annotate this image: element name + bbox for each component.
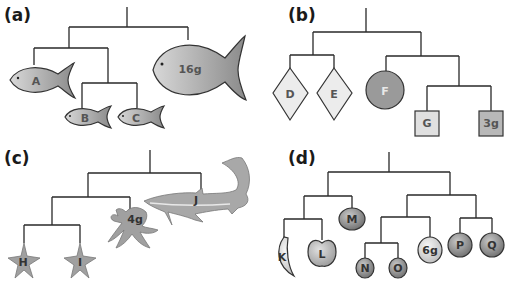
diamond-d: D — [273, 68, 308, 120]
leaf-label-3g: 3g — [483, 117, 499, 130]
fish-c: C — [118, 106, 164, 128]
octopus-4g: 4g — [108, 208, 158, 249]
leaf-label-n: N — [360, 262, 369, 275]
leaf-label-j: J — [193, 194, 198, 207]
leaf-label-i: I — [78, 256, 82, 269]
starfish-i: I — [64, 243, 96, 278]
panel-d: (d) K L M N O 6g — [278, 148, 504, 278]
shark-j: J — [144, 157, 249, 225]
fish-eye-icon — [17, 77, 19, 79]
leaf-label-h: H — [18, 256, 27, 269]
fish-b: B — [65, 106, 111, 128]
leaf-label-d: D — [285, 88, 294, 101]
fruit-6g: 6g — [418, 237, 442, 263]
diamond-e: E — [317, 68, 352, 120]
leaf-label-c: C — [132, 112, 140, 125]
leaf-label-q: Q — [487, 239, 496, 252]
fish-eye-icon — [122, 115, 124, 117]
square-3g: 3g — [479, 111, 503, 136]
banana-k: K — [278, 237, 294, 276]
fruit-p: P — [448, 233, 472, 257]
leaf-label-6g: 6g — [422, 244, 438, 257]
panel-label-d: (d) — [288, 148, 316, 168]
phylogenetic-figure: (a) A B C 16g (b) — [0, 0, 508, 282]
leaf-label-g: G — [422, 117, 431, 130]
panel-label-b: (b) — [288, 5, 316, 25]
panel-label-a: (a) — [4, 5, 31, 25]
fruit-q: Q — [480, 233, 504, 257]
leaf-label-16g: 16g — [178, 63, 201, 76]
leaf-label-e: E — [330, 88, 338, 101]
panel-b: (b) D E F G 3g — [273, 5, 503, 136]
fish-eye-icon — [69, 115, 71, 117]
square-g: G — [415, 111, 439, 136]
leaf-label-k: K — [278, 251, 287, 264]
apple-l: L — [308, 240, 336, 266]
fish-a: A — [10, 63, 75, 98]
leaf-label-b: B — [81, 112, 89, 125]
leaf-label-p: P — [456, 239, 464, 252]
leaf-label-4g: 4g — [127, 213, 143, 226]
fruit-m: M — [339, 208, 365, 230]
starfish-h: H — [8, 243, 40, 278]
leaf-label-m: M — [347, 213, 358, 226]
fruit-n: N — [356, 258, 374, 278]
panel-c: (c) J 4g H I — [4, 148, 249, 278]
fruit-o: O — [389, 258, 407, 278]
leaf-label-l: L — [318, 248, 325, 261]
panel-label-c: (c) — [4, 148, 30, 168]
fish-eye-icon — [161, 63, 164, 66]
leaf-label-f: F — [381, 85, 389, 98]
circle-f: F — [366, 71, 404, 109]
fish-16g: 16g — [153, 36, 246, 100]
leaf-label-a: A — [32, 75, 41, 88]
leaf-label-o: O — [393, 262, 402, 275]
panel-a: (a) A B C 16g — [4, 5, 246, 128]
